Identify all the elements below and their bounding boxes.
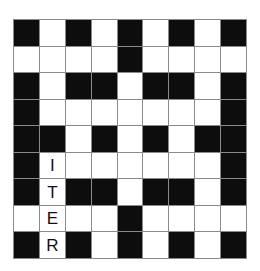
crossword-cell[interactable] [169, 206, 194, 232]
crossword-cell[interactable] [195, 179, 220, 205]
crossword-cell[interactable] [92, 20, 117, 46]
crossword-cell[interactable] [195, 232, 220, 258]
crossword-cell[interactable] [143, 100, 168, 126]
black-square [169, 232, 194, 258]
black-square [143, 73, 168, 99]
crossword-cell[interactable] [40, 100, 65, 126]
black-square [221, 126, 246, 152]
crossword-cell[interactable] [221, 206, 246, 232]
crossword-cell[interactable] [195, 47, 220, 73]
black-square [221, 73, 246, 99]
crossword-cell[interactable] [92, 47, 117, 73]
black-square [40, 126, 65, 152]
black-square [14, 20, 39, 46]
crossword-cell[interactable] [40, 20, 65, 46]
black-square [14, 73, 39, 99]
black-square [195, 126, 220, 152]
black-square [118, 206, 143, 232]
crossword-cell[interactable] [118, 126, 143, 152]
crossword-cell[interactable]: T [40, 179, 65, 205]
crossword-cell[interactable] [40, 73, 65, 99]
black-square [221, 100, 246, 126]
crossword-cell[interactable] [14, 206, 39, 232]
black-square [118, 20, 143, 46]
crossword-cell[interactable] [195, 20, 220, 46]
crossword-cell[interactable] [118, 179, 143, 205]
crossword-cell[interactable] [143, 153, 168, 179]
black-square [221, 232, 246, 258]
black-square [14, 100, 39, 126]
black-square [169, 73, 194, 99]
crossword-cell[interactable] [195, 206, 220, 232]
crossword-cell[interactable] [143, 232, 168, 258]
crossword-grid: ITER [13, 19, 247, 259]
black-square [221, 179, 246, 205]
crossword-cell[interactable] [92, 100, 117, 126]
crossword-cell[interactable] [92, 206, 117, 232]
black-square [221, 153, 246, 179]
crossword-cell[interactable] [92, 153, 117, 179]
crossword-cell[interactable] [195, 153, 220, 179]
black-square [66, 73, 91, 99]
black-square [14, 232, 39, 258]
black-square [169, 20, 194, 46]
black-square [118, 232, 143, 258]
black-square [66, 20, 91, 46]
crossword-cell[interactable] [118, 153, 143, 179]
black-square [14, 126, 39, 152]
black-square [92, 179, 117, 205]
crossword-cell[interactable] [66, 206, 91, 232]
black-square [169, 179, 194, 205]
crossword-cell[interactable] [66, 126, 91, 152]
black-square [66, 232, 91, 258]
crossword-cell[interactable] [143, 20, 168, 46]
crossword-cell[interactable] [66, 100, 91, 126]
crossword-cell[interactable] [118, 100, 143, 126]
crossword-cell[interactable] [92, 232, 117, 258]
crossword-cell[interactable] [221, 47, 246, 73]
crossword-cell[interactable] [66, 47, 91, 73]
crossword-cell[interactable] [40, 47, 65, 73]
black-square [118, 47, 143, 73]
crossword-cell[interactable] [143, 206, 168, 232]
crossword-cell[interactable] [169, 100, 194, 126]
black-square [14, 153, 39, 179]
crossword-cell[interactable] [14, 47, 39, 73]
crossword-cell[interactable]: R [40, 232, 65, 258]
black-square [221, 20, 246, 46]
crossword-cell[interactable]: E [40, 206, 65, 232]
crossword-cell[interactable] [66, 153, 91, 179]
black-square [143, 179, 168, 205]
black-square [92, 73, 117, 99]
crossword-cell[interactable]: I [40, 153, 65, 179]
crossword-cell[interactable] [118, 73, 143, 99]
black-square [66, 179, 91, 205]
black-square [92, 126, 117, 152]
crossword-cell[interactable] [169, 153, 194, 179]
black-square [143, 126, 168, 152]
crossword-cell[interactable] [169, 47, 194, 73]
crossword-cell[interactable] [195, 73, 220, 99]
crossword-cell[interactable] [143, 47, 168, 73]
black-square [14, 179, 39, 205]
crossword-cell[interactable] [195, 100, 220, 126]
crossword-cell[interactable] [169, 126, 194, 152]
